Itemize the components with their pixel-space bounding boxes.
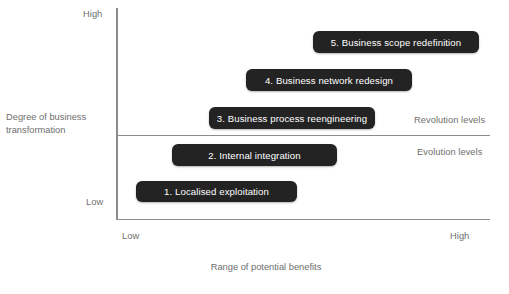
- y-axis-low-label: Low: [86, 196, 103, 209]
- evolution-revolution-divider-line: [117, 135, 490, 136]
- y-axis-line: [116, 8, 118, 220]
- x-axis-title: Range of potential benefits: [116, 262, 416, 272]
- transformation-levels-diagram: Degree of business transformation High L…: [0, 0, 509, 294]
- bar-level-3-label: 3. Business process reengineering: [217, 113, 368, 124]
- bar-level-2: 2. Internal integration: [172, 144, 337, 166]
- bar-level-4-label: 4. Business network redesign: [265, 75, 393, 86]
- bar-level-1: 1. Localised exploitation: [136, 181, 297, 202]
- y-axis-title: Degree of business transformation: [6, 111, 114, 136]
- bar-level-3: 3. Business process reengineering: [209, 107, 375, 129]
- y-axis-title-line-2: transformation: [6, 124, 114, 137]
- bar-level-2-label: 2. Internal integration: [208, 150, 300, 161]
- zone-label-revolution: Revolution levels: [414, 114, 485, 127]
- y-axis-high-label: High: [83, 8, 102, 21]
- y-axis-title-line-1: Degree of business: [6, 111, 114, 124]
- bar-level-5: 5. Business scope redefinition: [313, 31, 479, 53]
- bar-level-4: 4. Business network redesign: [246, 69, 412, 91]
- bar-level-1-label: 1. Localised exploitation: [164, 186, 269, 197]
- zone-label-evolution: Evolution levels: [417, 146, 482, 159]
- bar-level-5-label: 5. Business scope redefinition: [331, 37, 461, 48]
- x-axis-low-label: Low: [122, 230, 139, 243]
- x-axis-line: [116, 219, 490, 221]
- x-axis-high-label: High: [450, 230, 469, 243]
